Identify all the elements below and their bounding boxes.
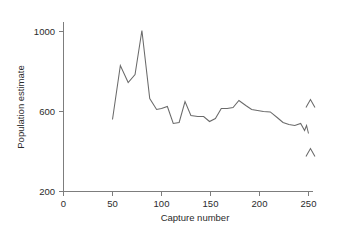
y-tick-label-1000: 1000 [34, 26, 55, 37]
data-series-line [113, 31, 309, 134]
x-tick-label-200: 200 [252, 198, 268, 209]
x-tick-label-100: 100 [154, 198, 170, 209]
x-tick-label-250: 250 [301, 198, 317, 209]
x-tick-label-0: 0 [61, 198, 66, 209]
line-chart: 1000 600 200 0 50 100 150 200 250 Captur… [0, 0, 338, 233]
x-tick-label-150: 150 [203, 198, 219, 209]
x-axis-title: Capture number [161, 212, 230, 223]
upper-interval-caret-icon [306, 100, 315, 108]
x-tick-label-50: 50 [107, 198, 118, 209]
y-axis-title: Population estimate [15, 65, 26, 148]
lower-interval-caret-icon [306, 149, 315, 157]
y-tick-label-200: 200 [39, 186, 55, 197]
chart-figure: 1000 600 200 0 50 100 150 200 250 Captur… [0, 0, 338, 233]
y-tick-label-600: 600 [39, 106, 55, 117]
